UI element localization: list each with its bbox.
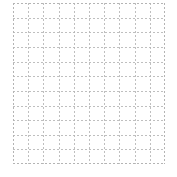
gridline-vertical [59,3,60,164]
grid-canvas [0,0,177,177]
gridline-horizontal [13,3,165,4]
gridline-vertical [150,3,151,164]
gridline-vertical [89,3,90,164]
gridline-vertical [43,3,44,164]
gridline-vertical [164,3,165,164]
gridline-horizontal [13,18,165,19]
gridline-horizontal [13,120,165,121]
gridline-horizontal [13,47,165,48]
gridline-horizontal [13,32,165,33]
gridline-horizontal [13,149,165,150]
gridline-vertical [135,3,136,164]
grid-plot-area [13,3,165,164]
gridline-horizontal [13,76,165,77]
gridline-vertical [119,3,120,164]
gridline-vertical [13,3,14,164]
gridline-horizontal [13,91,165,92]
gridline-vertical [74,3,75,164]
gridline-vertical [104,3,105,164]
gridline-horizontal [13,135,165,136]
gridline-horizontal [13,106,165,107]
gridline-vertical [28,3,29,164]
gridline-horizontal [13,163,165,164]
gridline-horizontal [13,62,165,63]
